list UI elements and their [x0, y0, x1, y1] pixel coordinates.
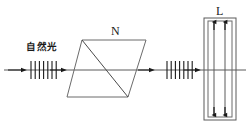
left-tick-group — [31, 61, 56, 79]
cell-inner-rect — [208, 21, 232, 117]
prism-outline — [67, 40, 146, 97]
prism-label-n: N — [111, 25, 120, 37]
nicol-prism — [67, 40, 146, 97]
kerr-cell — [204, 18, 236, 120]
diagram-canvas — [0, 0, 248, 128]
cell-outer-rect — [204, 18, 236, 120]
optics-diagram: 自然光 N L — [0, 0, 248, 128]
prism-diagonal — [82, 40, 128, 97]
cell-label-l: L — [216, 5, 223, 17]
right-tick-group — [167, 61, 192, 79]
source-light-label: 自然光 — [26, 42, 58, 52]
